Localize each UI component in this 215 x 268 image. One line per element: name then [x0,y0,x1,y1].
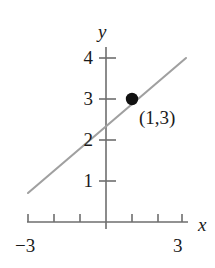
point-annotation-label: (1,3) [139,108,175,127]
plot-canvas [0,0,215,268]
coordinate-plane-figure: y x 4 3 2 1 −3 3 (1,3) [0,0,215,268]
x-tick-label-3: 3 [173,236,183,255]
x-axis-ticks [28,214,182,222]
y-tick-label-3: 3 [76,89,93,108]
y-axis-label: y [98,22,106,41]
x-axis-label: x [198,215,206,234]
data-point-marker [126,93,138,105]
x-tick-label--3: −3 [15,236,35,255]
y-tick-label-1: 1 [76,171,93,190]
y-tick-label-4: 4 [76,48,93,67]
y-tick-label-2: 2 [76,130,93,149]
